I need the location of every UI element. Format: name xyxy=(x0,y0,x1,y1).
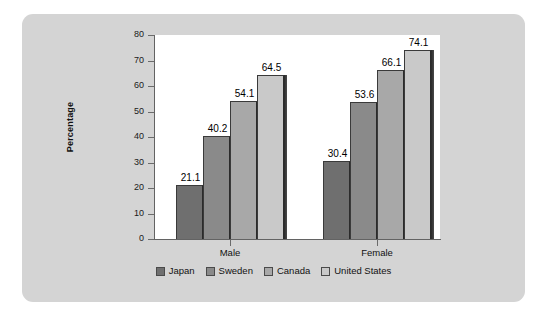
y-tick-60 xyxy=(148,86,154,87)
y-tick-30 xyxy=(148,163,154,164)
bar-japan-male[interactable] xyxy=(176,185,203,239)
legend-swatch-icon xyxy=(156,267,165,276)
bar-japan-female[interactable] xyxy=(323,161,350,239)
legend-label: Canada xyxy=(277,266,310,276)
y-tick-label-text: 0 xyxy=(104,234,144,243)
y-tick-10 xyxy=(148,214,154,215)
legend-item-united-states[interactable]: United States xyxy=(321,266,391,276)
y-tick-label-text: 40 xyxy=(104,132,144,141)
y-tick-40 xyxy=(148,137,154,138)
legend-label: Japan xyxy=(169,266,195,276)
y-tick-label-text: 30 xyxy=(104,158,144,167)
legend-label: Sweden xyxy=(219,266,253,276)
legend-swatch-icon xyxy=(264,267,273,276)
bar-united-states-female[interactable] xyxy=(404,50,431,239)
bar-canada-male[interactable] xyxy=(230,101,257,239)
chart-panel: Percentage 01020304050607080 21.140.254.… xyxy=(22,14,525,302)
y-tick-label-30: 30 xyxy=(98,158,144,167)
x-axis-label-male: Male xyxy=(190,247,270,258)
legend-item-japan[interactable]: Japan xyxy=(156,266,195,276)
chart-legend: JapanSwedenCanadaUnited States xyxy=(22,266,525,276)
bar-value-label: 74.1 xyxy=(400,37,437,48)
legend-label: United States xyxy=(334,266,391,276)
y-tick-label-text: 50 xyxy=(104,107,144,116)
bar-sweden-male[interactable] xyxy=(203,136,230,239)
y-tick-label-text: 70 xyxy=(104,56,144,65)
y-tick-label-10: 10 xyxy=(98,209,144,218)
legend-item-sweden[interactable]: Sweden xyxy=(206,266,253,276)
bar-canada-female[interactable] xyxy=(377,70,404,239)
y-tick-label-text: 80 xyxy=(104,30,144,39)
y-tick-label-text: 10 xyxy=(104,209,144,218)
x-tick-female xyxy=(377,240,378,246)
y-tick-label-50: 50 xyxy=(98,107,144,116)
y-tick-50 xyxy=(148,112,154,113)
y-tick-0 xyxy=(148,239,154,240)
y-tick-label-40: 40 xyxy=(98,132,144,141)
y-tick-label-20: 20 xyxy=(98,183,144,192)
bar-united-states-male[interactable] xyxy=(257,75,284,239)
y-tick-label-text: 60 xyxy=(104,81,144,90)
x-axis-line xyxy=(154,239,441,240)
x-axis-label-female: Female xyxy=(337,247,417,258)
y-axis-title: Percentage xyxy=(65,67,75,187)
x-tick-male xyxy=(230,240,231,246)
y-tick-20 xyxy=(148,188,154,189)
y-tick-label-70: 70 xyxy=(98,56,144,65)
y-tick-label-0: 0 xyxy=(98,234,144,243)
y-axis-line xyxy=(154,35,155,240)
bar-value-label: 64.5 xyxy=(253,62,290,73)
y-tick-label-80: 80 xyxy=(98,30,144,39)
y-tick-label-60: 60 xyxy=(98,81,144,90)
y-tick-label-text: 20 xyxy=(104,183,144,192)
y-tick-80 xyxy=(148,35,154,36)
legend-item-canada[interactable]: Canada xyxy=(264,266,310,276)
legend-swatch-icon xyxy=(321,267,330,276)
y-tick-70 xyxy=(148,61,154,62)
legend-swatch-icon xyxy=(206,267,215,276)
bar-sweden-female[interactable] xyxy=(350,102,377,239)
